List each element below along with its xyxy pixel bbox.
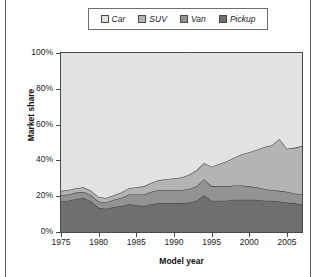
legend-item-label: Van xyxy=(191,15,206,24)
x-tick-label: 1990 xyxy=(154,238,194,247)
legend-item-label: Car xyxy=(112,15,126,24)
y-tick-label: 40% xyxy=(17,155,53,164)
y-tick-label: 60% xyxy=(17,120,53,129)
legend-swatch-car-icon xyxy=(101,15,109,23)
legend-item-pickup[interactable]: Pickup xyxy=(219,15,256,24)
legend-item-suv[interactable]: SUV xyxy=(138,15,166,24)
legend-swatch-suv-icon xyxy=(138,15,146,23)
x-tick-label: 1975 xyxy=(41,238,81,247)
y-tick-label: 20% xyxy=(17,191,53,200)
y-tick-label: 0% xyxy=(17,227,53,236)
x-tick-label: 2005 xyxy=(267,238,307,247)
x-axis-title: Model year xyxy=(60,256,303,266)
stacked-area-series xyxy=(61,53,302,232)
legend-item-van[interactable]: Van xyxy=(180,15,206,24)
chart-legend: CarSUVVanPickup xyxy=(88,8,268,30)
plot-area xyxy=(60,52,303,233)
legend-swatch-van-icon xyxy=(180,15,188,23)
x-tick-label: 1980 xyxy=(79,238,119,247)
y-tick-label: 80% xyxy=(17,84,53,93)
figure-border-right xyxy=(310,0,311,277)
x-tick-label: 2000 xyxy=(229,238,269,247)
x-tick-label: 1985 xyxy=(116,238,156,247)
y-tick-label: 100% xyxy=(17,48,53,57)
x-tick-label: 1995 xyxy=(192,238,232,247)
chart-figure: CarSUVVanPickup Market share 0%20%40%60%… xyxy=(0,0,316,277)
legend-item-label: SUV xyxy=(149,15,166,24)
figure-border-left xyxy=(5,0,6,277)
legend-item-car[interactable]: Car xyxy=(101,15,126,24)
legend-item-label: Pickup xyxy=(230,15,256,24)
legend-swatch-pickup-icon xyxy=(219,15,227,23)
